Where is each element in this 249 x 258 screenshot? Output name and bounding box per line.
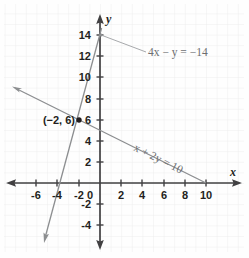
y-tick-label: 6 (85, 114, 91, 126)
x-tick-label: -6 (31, 189, 41, 201)
x-tick-label: 6 (161, 189, 167, 201)
x-tick-label: 8 (182, 189, 188, 201)
coordinate-graph: -6 -4 -2 2 4 6 8 10 14 12 10 8 6 4 2 -2 … (0, 0, 249, 258)
equation-label-steep: 4x − y = −14 (148, 46, 208, 59)
y-tick-label: 14 (79, 29, 92, 41)
x-tick-label: -4 (52, 189, 63, 201)
intersection-point-label: (−2, 6) (43, 114, 75, 126)
x-tick-label: 4 (139, 189, 146, 201)
x-axis-label: x (229, 165, 236, 179)
intersection-point-dot (76, 117, 81, 122)
y-axis-label: y (104, 12, 112, 26)
y-tick-label: 10 (79, 71, 91, 83)
y-tick-label: -4 (81, 219, 92, 231)
x-tick-labels: -6 -4 -2 2 4 6 8 10 (31, 189, 212, 201)
graph-svg: -6 -4 -2 2 4 6 8 10 14 12 10 8 6 4 2 -2 … (0, 0, 249, 258)
y-tick-label: 2 (85, 156, 91, 168)
x-tick-label: 10 (200, 189, 212, 201)
origin-label: 0 (87, 189, 93, 201)
grid-lines (4, 4, 244, 252)
y-tick-label: 8 (85, 93, 91, 105)
y-tick-label: 12 (79, 50, 91, 62)
y-tick-label: 4 (85, 135, 92, 147)
leader-line-anchor-dot (99, 33, 102, 36)
x-tick-label: 2 (118, 189, 124, 201)
